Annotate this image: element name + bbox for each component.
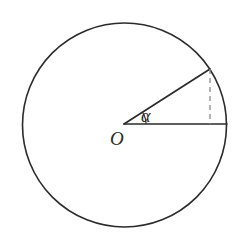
geometry-figure-canvas: O α bbox=[0, 0, 246, 249]
circle-angle-diagram: O α bbox=[0, 0, 246, 249]
circle-outline bbox=[23, 23, 227, 227]
slanted-radius-line bbox=[124, 69, 210, 124]
center-point-label: O bbox=[110, 128, 124, 149]
angle-label-alpha: α bbox=[141, 106, 151, 126]
